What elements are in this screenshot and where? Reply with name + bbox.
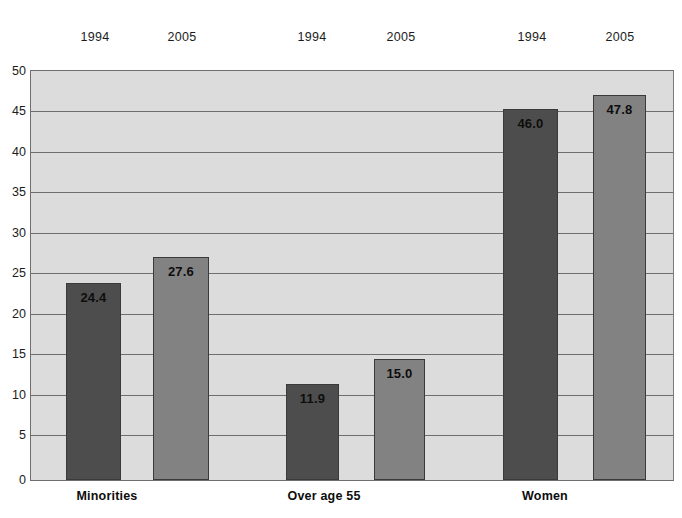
year-label-over-age-55-2005: 2005 xyxy=(371,30,431,44)
category-label-minorities: Minorities xyxy=(27,489,187,503)
year-label-women-2005: 2005 xyxy=(590,30,650,44)
y-tick-25: 25 xyxy=(0,266,26,280)
year-label-minorities-1994: 1994 xyxy=(65,30,125,44)
year-label-minorities-2005: 2005 xyxy=(152,30,212,44)
y-tick-40: 40 xyxy=(0,145,26,159)
y-tick-10: 10 xyxy=(0,388,26,402)
y-tick-15: 15 xyxy=(0,347,26,361)
year-label-women-1994: 1994 xyxy=(502,30,562,44)
y-tick-30: 30 xyxy=(0,226,26,240)
y-tick-50: 50 xyxy=(0,64,26,78)
year-label-over-age-55-1994: 1994 xyxy=(282,30,342,44)
y-tick-35: 35 xyxy=(0,185,26,199)
category-label-over-age-55: Over age 55 xyxy=(244,489,404,503)
y-axis: 50 45 40 35 30 25 20 15 10 5 0 xyxy=(0,71,674,481)
y-tick-45: 45 xyxy=(0,104,26,118)
y-tick-20: 20 xyxy=(0,307,26,321)
y-tick-0: 0 xyxy=(0,473,26,487)
y-tick-5: 5 xyxy=(0,428,26,442)
year-header-band: 1994 2005 1994 2005 1994 2005 xyxy=(30,11,674,71)
category-label-women: Women xyxy=(465,489,625,503)
bar-chart: 24.4 27.6 11.9 15.0 46.0 47.8 1994 2005 … xyxy=(0,0,682,518)
